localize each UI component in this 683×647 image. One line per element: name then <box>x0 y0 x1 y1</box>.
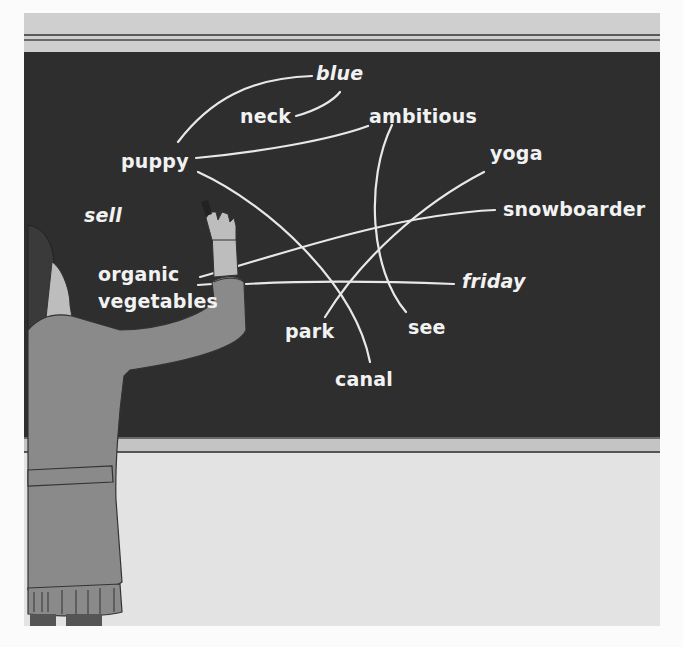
word-canal: canal <box>335 370 393 389</box>
chalk-stick <box>201 200 212 216</box>
word-blue: blue <box>316 64 363 83</box>
word-friday: friday <box>462 272 526 291</box>
leg-left <box>30 614 56 626</box>
word-vegetables: vegetables <box>98 292 218 311</box>
belt <box>28 466 113 486</box>
hand <box>206 212 236 240</box>
chalkboard-scene: blue neck ambitious puppy yoga sell snow… <box>0 0 683 647</box>
word-neck: neck <box>240 107 291 126</box>
word-organic: organic <box>98 265 180 284</box>
leg-right <box>66 614 102 626</box>
word-ambitious: ambitious <box>369 107 477 126</box>
sweater <box>28 277 246 593</box>
word-park: park <box>285 322 334 341</box>
word-puppy: puppy <box>121 152 189 171</box>
word-see: see <box>408 318 446 337</box>
word-snowboarder: snowboarder <box>503 200 645 219</box>
word-sell: sell <box>84 206 122 225</box>
word-yoga: yoga <box>490 144 543 163</box>
person-illustration <box>0 0 683 647</box>
